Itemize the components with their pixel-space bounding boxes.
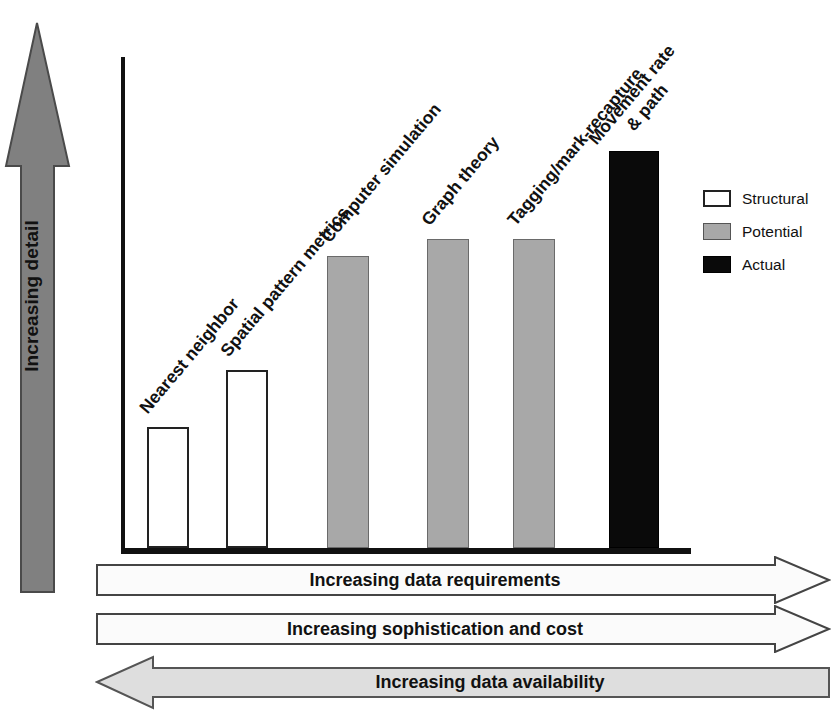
legend-label-actual: Actual (742, 256, 785, 274)
legend-label-structural: Structural (742, 190, 808, 208)
left-arrow-icon (95, 655, 831, 710)
legend-item-actual: Actual (703, 252, 831, 277)
bar-nearest-neighbor (147, 427, 189, 548)
legend-swatch-actual (703, 256, 731, 273)
x-axis-baseline (121, 548, 691, 554)
increasing-sophistication-cost-arrow: Increasing sophistication and cost (95, 605, 831, 653)
legend-swatch-potential (703, 223, 731, 240)
chart-figure: Increasing detail Nearest neighbor Spati… (0, 0, 831, 712)
right-arrow-icon (95, 605, 831, 653)
increasing-data-availability-arrow: Increasing data availability (95, 655, 831, 710)
bar-graph-theory (427, 239, 469, 548)
legend-swatch-structural (703, 190, 731, 207)
bar-movement-rate-path (609, 151, 659, 548)
legend-label-potential: Potential (742, 223, 802, 241)
increasing-data-requirements-arrow: Increasing data requirements (95, 556, 831, 604)
right-arrow-icon (95, 556, 831, 604)
bar-computer-simulation (327, 256, 369, 548)
bar-tagging-mark-recapture (513, 239, 555, 548)
legend-item-potential: Potential (703, 219, 831, 244)
legend-item-structural: Structural (703, 186, 831, 211)
bar-spatial-pattern-metrics (226, 370, 268, 548)
legend: Structural Potential Actual (703, 186, 831, 285)
